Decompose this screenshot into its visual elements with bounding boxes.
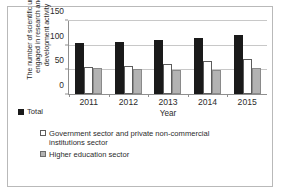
bar-government-sector [124, 66, 133, 94]
y-axis-tick-label: 150 [50, 6, 64, 16]
y-axis-tick-label: 0 [59, 80, 64, 90]
bar-higher-education [93, 68, 102, 94]
bar-total [154, 40, 163, 94]
bar-higher-education [212, 70, 221, 94]
x-axis-tick-label: 2013 [148, 97, 188, 107]
x-axis-line [68, 94, 267, 95]
bar-total [115, 42, 124, 94]
bar-government-sector [84, 67, 93, 94]
bars-layer [69, 21, 267, 94]
bar-group [188, 21, 228, 94]
legend-item-total: Total [18, 107, 264, 117]
plot-area: 050100150 [68, 21, 267, 95]
chart-figure: The number of scientific units engaged i… [7, 6, 273, 187]
bar-total [75, 43, 84, 94]
legend-label-total: Total [27, 107, 43, 117]
y-axis-title-line-2: engaged in research and [34, 0, 42, 73]
bar-total [234, 35, 243, 94]
x-axis-tick-label: 2014 [188, 97, 228, 107]
y-axis-tick-label: 100 [50, 31, 64, 41]
x-axis-tick-labels: 20112012201320142015 [69, 97, 267, 107]
y-axis-tick-label: 50 [55, 55, 64, 65]
legend-label-higher-education: Higher education sector [49, 150, 129, 160]
bar-group [148, 21, 188, 94]
bar-group [227, 21, 267, 94]
x-axis-tick-label: 2012 [109, 97, 149, 107]
legend-swatch-government-icon [40, 130, 46, 136]
legend-label-government-sector: Government sector and private non-commer… [49, 129, 209, 148]
chart-legend: Total Government sector and private non-… [18, 107, 264, 161]
legend-label-government-line-2: institutions sector [49, 138, 108, 147]
legend-swatch-total-icon [18, 109, 24, 115]
x-axis-tick-label: 2015 [227, 97, 267, 107]
bar-higher-education [172, 70, 181, 94]
legend-label-government-line-1: Government sector and private non-commer… [49, 129, 209, 138]
x-axis-tick-label: 2011 [69, 97, 109, 107]
legend-item-higher-education: Higher education sector [40, 150, 264, 160]
legend-item-government-sector: Government sector and private non-commer… [40, 129, 264, 148]
bar-higher-education [133, 69, 142, 94]
bar-group [69, 21, 109, 94]
y-axis-title-line-1: The number of scientific units [26, 0, 34, 80]
bar-government-sector [163, 64, 172, 94]
bar-group [109, 21, 149, 94]
bar-higher-education [252, 68, 261, 94]
bar-government-sector [203, 61, 212, 94]
bar-total [194, 38, 203, 94]
bar-government-sector [243, 59, 252, 94]
legend-swatch-higher-education-icon [40, 151, 46, 157]
